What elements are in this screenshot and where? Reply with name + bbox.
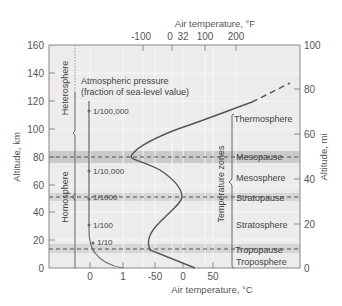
temperature-zones-label: Temperature zones — [216, 145, 226, 223]
zone-stratopause: Stratopause — [236, 193, 285, 203]
svg-text:0: 0 — [304, 263, 310, 274]
zone-mesopause: Mesopause — [236, 152, 283, 162]
bottom-tick-labels: 0 1 -50 0 50 — [87, 271, 219, 282]
svg-text:1: 1 — [120, 271, 126, 282]
svg-text:32: 32 — [177, 31, 189, 42]
right-axis-title: Altitude, mi — [318, 134, 329, 181]
svg-text:140: 140 — [27, 68, 44, 79]
svg-text:160: 160 — [27, 40, 44, 51]
zone-tropopause: Tropopause — [235, 245, 283, 255]
heterosphere-label: Heterosphere — [60, 61, 70, 116]
svg-text:200: 200 — [228, 31, 245, 42]
zone-troposphere: Troposphere — [236, 257, 287, 267]
svg-text:0: 0 — [38, 263, 44, 274]
pressure-label-100: 1/100 — [93, 221, 114, 230]
pressure-title-line1: Atmospheric pressure — [81, 76, 169, 86]
svg-text:80: 80 — [304, 84, 316, 95]
pressure-label-10: 1/10 — [97, 238, 113, 247]
svg-text:0: 0 — [180, 271, 186, 282]
zone-stratosphere: Stratosphere — [236, 220, 288, 230]
svg-text:-50: -50 — [148, 271, 163, 282]
svg-text:50: 50 — [207, 271, 219, 282]
top-axis-title: Air temperature, °F — [175, 18, 256, 29]
svg-text:40: 40 — [304, 174, 316, 185]
homosphere-label: Homosphere — [60, 171, 70, 223]
pressure-title-line2: (fraction of sea-level value) — [81, 87, 189, 97]
svg-text:-100: -100 — [131, 31, 151, 42]
svg-text:100: 100 — [27, 124, 44, 135]
svg-text:0: 0 — [167, 31, 173, 42]
pressure-label-10000: 1/10,000 — [93, 167, 125, 176]
svg-text:20: 20 — [33, 235, 45, 246]
svg-text:60: 60 — [304, 129, 316, 140]
svg-text:20: 20 — [304, 219, 316, 230]
svg-text:100: 100 — [304, 40, 321, 51]
fahrenheit-tick-labels: -100 0 32 100 200 — [131, 31, 245, 42]
pressure-label-1000: 1/1000 — [93, 193, 118, 202]
svg-text:40: 40 — [33, 207, 45, 218]
zone-mesosphere: Mesosphere — [236, 173, 286, 183]
svg-text:100: 100 — [197, 31, 214, 42]
svg-text:80: 80 — [33, 152, 45, 163]
bottom-axis-title: Air temperature, °C — [171, 284, 253, 295]
svg-text:120: 120 — [27, 96, 44, 107]
km-tick-labels: 0 20 40 60 80 100 120 140 160 — [27, 40, 44, 274]
atmosphere-chart: 0 20 40 60 80 100 120 140 160 Altitude, … — [0, 0, 342, 306]
pressure-label-100000: 1/100,000 — [93, 107, 129, 116]
left-axis-title: Altitude, km — [11, 132, 22, 182]
zone-thermosphere: Thermosphere — [234, 114, 293, 124]
svg-text:60: 60 — [33, 180, 45, 191]
svg-text:0: 0 — [87, 271, 93, 282]
